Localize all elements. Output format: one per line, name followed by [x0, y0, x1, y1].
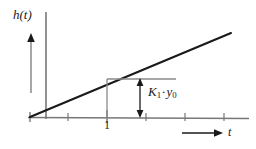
x-axis-line — [28, 118, 249, 119]
ramp-response-line — [30, 33, 231, 117]
figure-container: h(t) 1 t K1·y0 — [0, 0, 256, 149]
t-axis-direction-arrow — [182, 129, 223, 137]
t-axis-label: t — [228, 126, 231, 138]
ramp-response-plot — [0, 0, 256, 149]
gain-measure-double-arrow — [137, 78, 144, 118]
y-axis-direction-arrow — [27, 33, 35, 93]
gain-label-k: K — [148, 84, 157, 99]
x-axis-ticks — [30, 110, 224, 123]
gain-annotation-label: K1·y0 — [148, 85, 177, 100]
y-axis-label: h(t) — [13, 8, 32, 21]
gain-label-y-subscript: 0 — [172, 90, 176, 100]
x-axis-tick-label-one: 1 — [104, 119, 110, 131]
